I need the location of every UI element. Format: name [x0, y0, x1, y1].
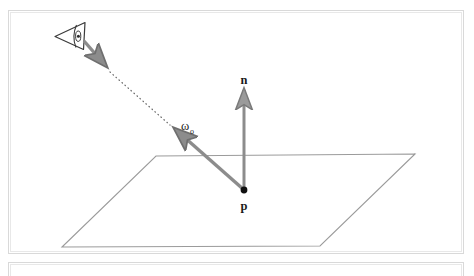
- point-label: p: [241, 199, 248, 213]
- omega-out-label: ω o: [181, 119, 194, 136]
- omega-label-base: ω: [181, 119, 189, 133]
- outgoing-direction-arrow: [175, 129, 243, 189]
- normal-label: n: [241, 73, 248, 87]
- viewer-eye-icon: [55, 23, 85, 50]
- eye-ray-arrow: [84, 41, 106, 66]
- view-ray-dotted-line: [110, 72, 170, 125]
- surface-plane: [62, 154, 415, 247]
- omega-label-subscript: o: [190, 127, 194, 136]
- surface-point-marker: [241, 187, 248, 194]
